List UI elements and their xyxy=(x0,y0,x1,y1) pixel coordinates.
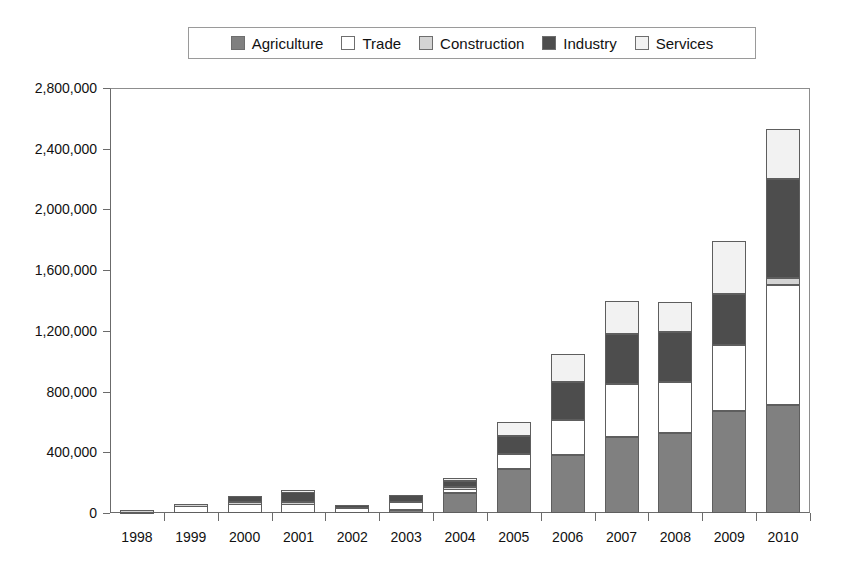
y-axis-tick-label: 2,400,000 xyxy=(5,142,97,156)
legend-item-trade[interactable]: Trade xyxy=(341,36,401,51)
bar-segment-agriculture[interactable] xyxy=(766,405,800,513)
bar-segment-services[interactable] xyxy=(497,422,531,436)
x-axis-tick-label: 2010 xyxy=(753,530,813,544)
bar-segment-trade[interactable] xyxy=(335,508,369,513)
bar-2006[interactable] xyxy=(551,88,585,513)
bar-2001[interactable] xyxy=(281,88,315,513)
x-axis-tick-label: 2000 xyxy=(215,530,275,544)
legend-item-label: Services xyxy=(656,36,714,51)
bar-1998[interactable] xyxy=(120,88,154,513)
x-axis-tick-mark xyxy=(164,513,165,521)
bar-segment-industry[interactable] xyxy=(605,334,639,384)
bar-segment-construction[interactable] xyxy=(120,510,154,513)
y-axis-tick-label: 2,800,000 xyxy=(5,81,97,95)
bar-segment-industry[interactable] xyxy=(712,294,746,344)
legend-swatch-icon xyxy=(419,36,433,50)
bar-2008[interactable] xyxy=(658,88,692,513)
x-axis-tick-mark xyxy=(218,513,219,521)
legend-item-label: Trade xyxy=(362,36,401,51)
bar-segment-agriculture[interactable] xyxy=(389,510,423,513)
y-axis-tick-label: 2,000,000 xyxy=(5,202,97,216)
x-axis-tick-label: 2002 xyxy=(322,530,382,544)
y-axis-tick-label: 1,600,000 xyxy=(5,263,97,277)
bar-2002[interactable] xyxy=(335,88,369,513)
bar-segment-agriculture[interactable] xyxy=(497,469,531,513)
bar-2010[interactable] xyxy=(766,88,800,513)
bar-segment-construction[interactable] xyxy=(281,502,315,505)
bar-segment-trade[interactable] xyxy=(766,285,800,405)
bar-2005[interactable] xyxy=(497,88,531,513)
x-axis-tick-label: 2007 xyxy=(592,530,652,544)
y-axis-tick-mark xyxy=(103,331,110,332)
bar-segment-industry[interactable] xyxy=(335,505,369,508)
y-axis-tick-mark xyxy=(103,392,110,393)
bar-2007[interactable] xyxy=(605,88,639,513)
bar-segment-trade[interactable] xyxy=(658,382,692,432)
bar-segment-services[interactable] xyxy=(766,129,800,179)
bar-segment-agriculture[interactable] xyxy=(658,433,692,513)
x-axis-tick-mark xyxy=(756,513,757,521)
legend-item-services[interactable]: Services xyxy=(635,36,714,51)
x-axis-tick-label: 2001 xyxy=(268,530,328,544)
bar-segment-agriculture[interactable] xyxy=(551,455,585,513)
y-axis-tick-mark xyxy=(103,88,110,89)
stacked-bar-chart: AgricultureTradeConstructionIndustryServ… xyxy=(0,0,845,571)
bar-segment-industry[interactable] xyxy=(497,436,531,454)
y-axis-tick-mark xyxy=(103,452,110,453)
bar-segment-industry[interactable] xyxy=(551,382,585,420)
x-axis-tick-label: 2006 xyxy=(538,530,598,544)
legend-swatch-icon xyxy=(231,36,245,50)
bar-segment-industry[interactable] xyxy=(658,332,692,382)
bar-segment-construction[interactable] xyxy=(228,502,262,505)
x-axis-tick-label: 2005 xyxy=(484,530,544,544)
bar-segment-construction[interactable] xyxy=(174,504,208,507)
bar-segment-trade[interactable] xyxy=(389,502,423,510)
legend-swatch-icon xyxy=(341,36,355,50)
x-axis-tick-mark xyxy=(702,513,703,521)
x-axis-tick-label: 1999 xyxy=(161,530,221,544)
bar-segment-trade[interactable] xyxy=(712,345,746,412)
bar-2004[interactable] xyxy=(443,88,477,513)
bar-segment-construction[interactable] xyxy=(443,487,477,490)
bar-segment-agriculture[interactable] xyxy=(605,437,639,513)
y-axis-tick-mark xyxy=(103,270,110,271)
y-axis-tick-label: 0 xyxy=(5,506,97,520)
bar-segment-services[interactable] xyxy=(712,241,746,294)
bar-segment-agriculture[interactable] xyxy=(443,493,477,513)
bar-2009[interactable] xyxy=(712,88,746,513)
bar-segment-services[interactable] xyxy=(551,354,585,383)
bar-segment-industry[interactable] xyxy=(443,481,477,487)
y-axis-tick-mark xyxy=(103,149,110,150)
y-axis-tick-label: 800,000 xyxy=(5,385,97,399)
bar-segment-industry[interactable] xyxy=(389,495,423,503)
bar-segment-industry[interactable] xyxy=(228,496,262,502)
x-axis-tick-mark xyxy=(810,513,811,521)
bar-segment-industry[interactable] xyxy=(766,179,800,278)
bar-segment-services[interactable] xyxy=(443,478,477,481)
x-axis-tick-mark xyxy=(379,513,380,521)
bar-2003[interactable] xyxy=(389,88,423,513)
bar-segment-services[interactable] xyxy=(281,490,315,493)
legend-item-construction[interactable]: Construction xyxy=(419,36,524,51)
legend-swatch-icon xyxy=(542,36,556,50)
bar-segment-agriculture[interactable] xyxy=(712,411,746,513)
bar-segment-industry[interactable] xyxy=(281,492,315,503)
bar-segment-services[interactable] xyxy=(658,302,692,332)
legend-swatch-icon xyxy=(635,36,649,50)
bar-segment-construction[interactable] xyxy=(766,278,800,286)
bar-segment-trade[interactable] xyxy=(497,454,531,469)
legend-item-industry[interactable]: Industry xyxy=(542,36,616,51)
bar-segment-trade[interactable] xyxy=(605,384,639,437)
chart-legend: AgricultureTradeConstructionIndustryServ… xyxy=(188,27,756,59)
bar-segment-services[interactable] xyxy=(605,301,639,334)
x-axis-tick-mark xyxy=(325,513,326,521)
bar-2000[interactable] xyxy=(228,88,262,513)
bar-segment-trade[interactable] xyxy=(551,420,585,455)
legend-item-agriculture[interactable]: Agriculture xyxy=(231,36,324,51)
x-axis-tick-mark xyxy=(272,513,273,521)
legend-item-label: Industry xyxy=(563,36,616,51)
x-axis-tick-label: 2009 xyxy=(699,530,759,544)
y-axis-tick-mark xyxy=(103,209,110,210)
legend-item-label: Construction xyxy=(440,36,524,51)
bar-1999[interactable] xyxy=(174,88,208,513)
